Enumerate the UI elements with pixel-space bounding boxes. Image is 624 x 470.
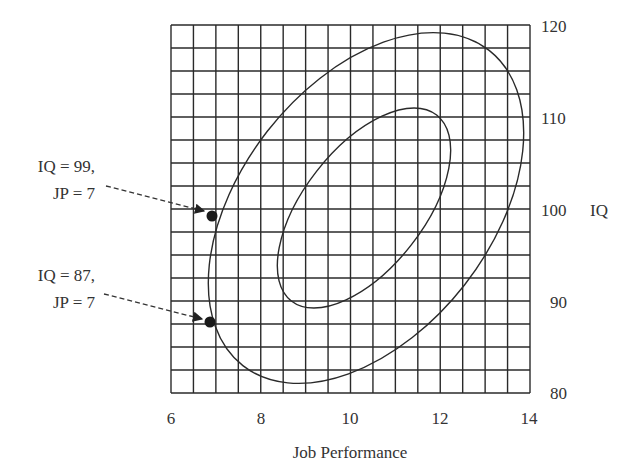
x-axis-title: Job Performance — [293, 443, 408, 462]
x-tick-10: 10 — [342, 409, 359, 428]
y-tick-100: 100 — [541, 201, 567, 220]
annotation-1-line2: JP = 7 — [53, 184, 96, 203]
x-tick-12: 12 — [432, 409, 449, 428]
annotation-2-line2: JP = 7 — [53, 293, 96, 312]
y-tick-80: 80 — [550, 384, 567, 403]
annotation-1-line1: IQ = 99, — [38, 157, 95, 176]
data-point-iq87 — [205, 317, 216, 328]
y-tick-110: 110 — [541, 109, 566, 128]
bivariate-chart: IQ = 99, JP = 7 IQ = 87, JP = 7 120 110 … — [0, 0, 624, 470]
y-tick-120: 120 — [541, 17, 567, 36]
x-tick-14: 14 — [521, 409, 539, 428]
annotation-2-line1: IQ = 87, — [38, 266, 95, 285]
y-axis-title: IQ — [590, 201, 608, 220]
grid — [171, 25, 530, 393]
annotation-arrow-1 — [106, 186, 204, 211]
x-tick-6: 6 — [167, 409, 176, 428]
x-tick-8: 8 — [257, 409, 266, 428]
annotation-arrow-2 — [104, 294, 202, 319]
data-point-iq99 — [207, 211, 218, 222]
y-tick-90: 90 — [550, 293, 567, 312]
